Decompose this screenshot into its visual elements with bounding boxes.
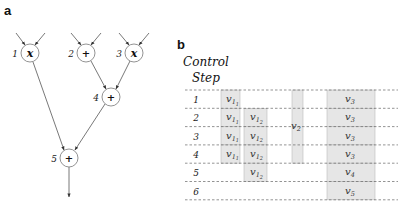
edge-input-3b xyxy=(139,33,149,45)
edge-input-2b xyxy=(91,33,101,45)
edge-input-3a xyxy=(119,33,129,45)
graph-node-5: + 5 xyxy=(51,149,78,167)
edge-2-to-4 xyxy=(91,61,106,89)
dataflow-graph-and-schedule: x 1 + 2 x 3 + 4 + 5 xyxy=(0,0,399,212)
step-label-1: 1 xyxy=(193,95,199,105)
edge-4-to-5 xyxy=(75,104,105,150)
node-5-op: + xyxy=(65,153,73,164)
edge-3-to-4 xyxy=(116,61,130,89)
graph-node-1: x 1 xyxy=(12,44,39,62)
step-label-3: 3 xyxy=(193,132,199,142)
graph-node-3: x 3 xyxy=(116,44,143,62)
edge-1-to-5 xyxy=(33,62,64,150)
edge-input-1b xyxy=(35,33,45,45)
graph-node-4: + 4 xyxy=(92,88,120,106)
edge-input-2a xyxy=(71,33,81,45)
step-label-2: 2 xyxy=(192,113,199,123)
node-4-number: 4 xyxy=(92,93,99,103)
node-3-number: 3 xyxy=(116,49,122,59)
step-label-6: 6 xyxy=(193,187,199,197)
edge-input-1a xyxy=(16,33,25,45)
step-label-5: 5 xyxy=(193,168,199,178)
step-label-4: 4 xyxy=(192,150,199,160)
node-3-op: x xyxy=(130,47,138,60)
node-1-op: x xyxy=(26,47,34,60)
node-1-number: 1 xyxy=(12,49,18,59)
node-2-op: + xyxy=(82,48,90,59)
node-5-number: 5 xyxy=(51,154,57,164)
node-2-number: 2 xyxy=(67,49,74,59)
node-4-op: + xyxy=(107,92,115,103)
graph-node-2: + 2 xyxy=(67,44,95,62)
